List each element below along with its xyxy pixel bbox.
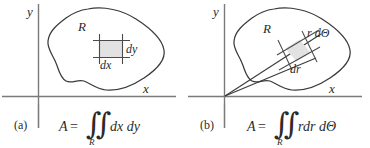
panel-b-formula-integrand: rdr dΘ	[298, 119, 336, 134]
panel-b-wedge-ray-upper	[225, 34, 321, 96]
panel-b-formula-equals: =	[258, 119, 266, 134]
panel-a-x-axis-label: x	[142, 81, 149, 96]
panel-b-formula-lhs: A	[246, 119, 256, 134]
panel-a-formula-lhs: A	[58, 119, 68, 134]
panel-b-y-axis-label: y	[211, 4, 219, 19]
panel-b-wedge-ray-lower	[225, 58, 316, 96]
panel-a-formula-integral-subscript: R	[88, 137, 95, 147]
panel-a-caption: (a)	[14, 118, 27, 132]
double-integral-area-figure: y x R dy dx (a) A = ∬ R dx dy y x R r dΘ…	[0, 0, 370, 148]
panel-a-formula-integral-sign: ∬	[86, 106, 112, 141]
panel-b-x-axis-label: x	[328, 81, 335, 96]
panel-b-arc-label: r dΘ	[307, 26, 330, 40]
figure-canvas: y x R dy dx (a) A = ∬ R dx dy y x R r dΘ…	[0, 0, 370, 148]
panel-b-caption: (b)	[200, 118, 214, 132]
panel-b-region-label: R	[262, 21, 271, 36]
panel-b-formula-integral-sign: ∬	[274, 106, 300, 141]
panel-b-radial-label: dr	[290, 62, 301, 76]
panel-a-area-element-cell	[100, 41, 123, 58]
panel-a-formula-integrand: dx dy	[110, 119, 141, 134]
panel-a-region-label: R	[77, 19, 86, 34]
panel-a-dy-label: dy	[126, 42, 138, 56]
panel-a-y-axis-label: y	[25, 4, 33, 19]
panel-b-formula-integral-subscript: R	[276, 137, 283, 147]
panel-a-dx-label: dx	[100, 58, 112, 72]
panel-a-formula-equals: =	[70, 119, 78, 134]
